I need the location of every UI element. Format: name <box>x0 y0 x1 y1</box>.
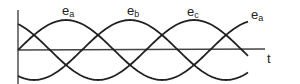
three-phase-diagram: ea eb ec ea t <box>0 0 300 84</box>
time-axis <box>18 49 265 50</box>
label-ea-2: ea <box>251 8 263 23</box>
label-ec: ec <box>187 5 199 20</box>
label-ea: ea <box>62 4 74 19</box>
label-t: t <box>267 52 271 65</box>
label-eb: eb <box>127 4 139 19</box>
